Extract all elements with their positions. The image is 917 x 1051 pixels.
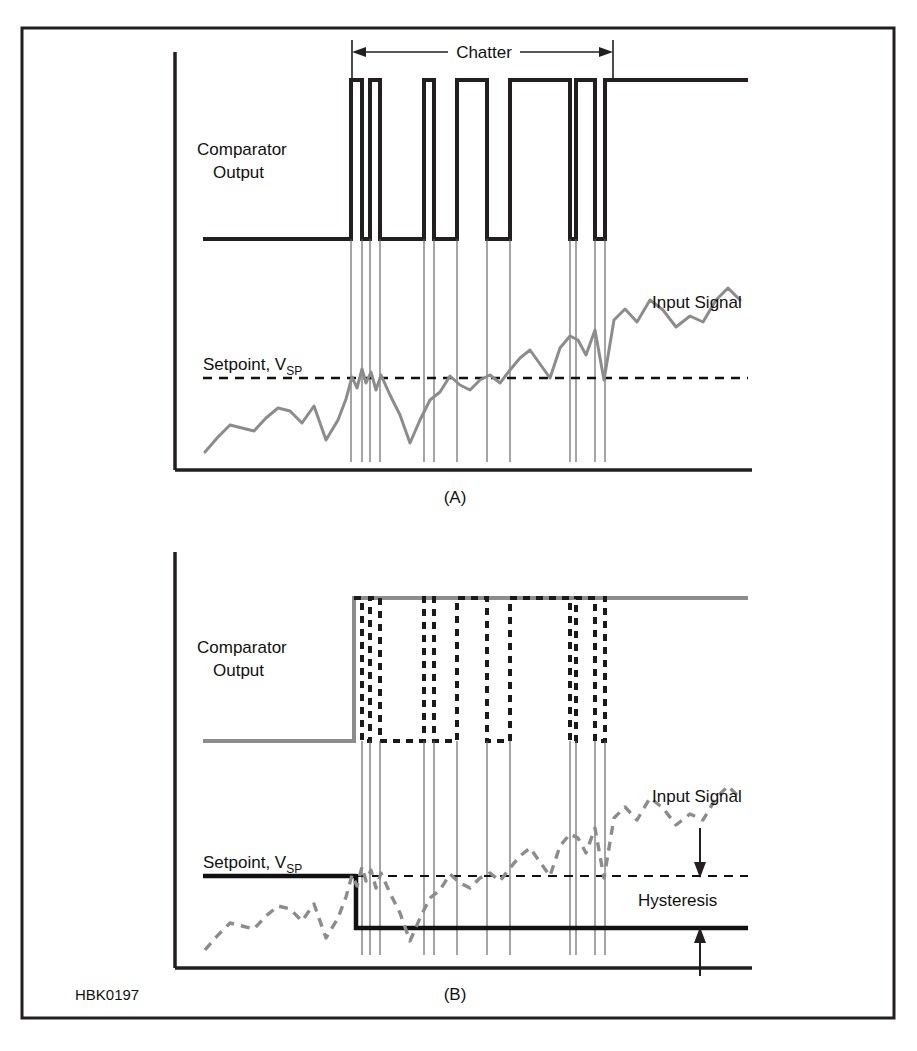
panel-a-caption: (A): [444, 488, 467, 507]
panel-a-comparator-label-line2: Output: [213, 163, 264, 182]
panel-b-hysteresis-label: Hysteresis: [638, 891, 717, 910]
panel-b-caption: (B): [444, 985, 467, 1004]
chatter-label: Chatter: [456, 43, 512, 62]
figure-code-label: HBK0197: [75, 986, 139, 1003]
timing-diagram-svg: Chatter Comparator Output Input Signal S…: [0, 0, 917, 1051]
panel-b-input-signal-label: Input Signal: [652, 787, 742, 806]
figure-root: Chatter Comparator Output Input Signal S…: [0, 0, 917, 1051]
panel-a-input-signal-label: Input Signal: [652, 293, 742, 312]
panel-a-comparator-label-line1: Comparator: [197, 140, 287, 159]
panel-b-comparator-label-line2: Output: [213, 661, 264, 680]
panel-b-comparator-label-line1: Comparator: [197, 638, 287, 657]
